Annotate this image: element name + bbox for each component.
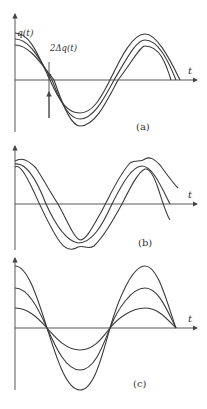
caption-a: (a) (136, 121, 150, 132)
panel-c: t (c) (15, 258, 197, 390)
t-label-c: t (188, 313, 193, 324)
curve-c-medium (15, 288, 176, 370)
caption-b: (b) (138, 237, 152, 248)
figure: q(t) 2Δq(t) t (a) t (b) t (c) (0, 0, 207, 409)
curve-b-upper (15, 158, 178, 240)
curve-b-middle (15, 164, 170, 243)
signal-label: q(t) (17, 28, 34, 38)
caption-c: (c) (133, 378, 147, 389)
band-label: 2Δq(t) (49, 43, 77, 53)
curve-a-middle (15, 39, 176, 119)
curve-c-small (15, 308, 176, 350)
t-label-a: t (188, 65, 193, 76)
panel-b: t (b) (15, 146, 197, 250)
panel-a: q(t) 2Δq(t) t (a) (15, 14, 197, 132)
t-label-b: t (188, 189, 193, 200)
